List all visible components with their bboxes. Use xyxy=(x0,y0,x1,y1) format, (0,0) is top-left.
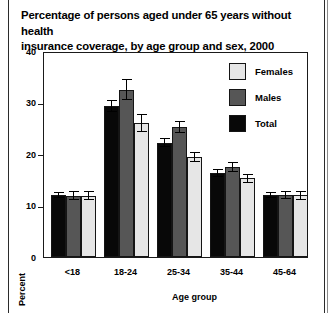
bar-females-<18 xyxy=(81,196,96,257)
y-tick-label: 0 xyxy=(14,254,36,263)
legend-label-females: Females xyxy=(255,66,293,77)
error-bar-total-<18 xyxy=(51,192,66,198)
bar-males-<18 xyxy=(66,196,81,257)
plot-area: Females Males Total xyxy=(43,52,308,258)
page-right-rule-outer xyxy=(327,0,328,313)
legend-item-total: Total xyxy=(229,115,293,132)
bar-females-25-34 xyxy=(187,157,202,257)
legend-item-males: Males xyxy=(229,89,293,106)
bar-females-18-24 xyxy=(134,123,149,257)
error-bar-females-25-34 xyxy=(187,152,202,161)
y-tick-label: 10 xyxy=(14,202,36,211)
error-bar-males-35-44 xyxy=(225,162,240,171)
error-bar-total-18-24 xyxy=(104,100,119,112)
error-bar-total-45-64 xyxy=(263,192,278,198)
y-tick-mark xyxy=(38,155,43,156)
figure-container: Percentage of persons aged under 65 year… xyxy=(0,0,333,313)
bar-females-35-44 xyxy=(240,178,255,257)
chart-title: Percentage of persons aged under 65 year… xyxy=(21,8,306,55)
y-axis-title: Percent xyxy=(17,273,27,306)
x-axis-title: Age group xyxy=(28,292,333,302)
error-bar-total-35-44 xyxy=(210,169,225,176)
y-tick-label: 40 xyxy=(14,48,36,57)
chart-title-line-1: Percentage of persons aged under 65 year… xyxy=(21,9,291,37)
bar-males-45-64 xyxy=(278,195,293,257)
bar-total-18-24 xyxy=(104,106,119,257)
page-left-rule xyxy=(8,0,9,313)
error-bar-total-25-34 xyxy=(157,138,172,147)
y-tick-mark xyxy=(38,207,43,208)
bar-males-25-34 xyxy=(172,127,187,257)
bar-total-35-44 xyxy=(210,173,225,257)
bar-females-45-64 xyxy=(293,195,308,257)
y-tick-mark xyxy=(38,104,43,105)
error-bar-females-18-24 xyxy=(134,114,149,133)
x-tick-label-45-64: 45-64 xyxy=(250,268,320,277)
bar-total-45-64 xyxy=(263,195,278,257)
bar-males-18-24 xyxy=(119,90,134,257)
y-tick-label: 30 xyxy=(14,99,36,108)
legend-label-males: Males xyxy=(255,92,281,103)
error-bar-males-18-24 xyxy=(119,79,134,101)
error-bar-females-<18 xyxy=(81,191,96,200)
legend-swatch-females xyxy=(229,63,246,80)
legend-item-females: Females xyxy=(229,63,293,80)
error-bar-males-<18 xyxy=(66,191,81,200)
legend-label-total: Total xyxy=(255,118,277,129)
page-right-rule xyxy=(324,0,325,313)
chart-title-line-2: insurance coverage, by age group and sex… xyxy=(21,40,274,52)
chart-legend: Females Males Total xyxy=(229,63,293,141)
bar-total-25-34 xyxy=(157,143,172,257)
error-bar-females-35-44 xyxy=(240,174,255,183)
y-tick-label: 20 xyxy=(14,151,36,160)
legend-swatch-males xyxy=(229,89,246,106)
bar-males-35-44 xyxy=(225,167,240,257)
error-bar-males-25-34 xyxy=(172,121,187,133)
error-bar-males-45-64 xyxy=(278,191,293,199)
bar-total-<18 xyxy=(51,195,66,257)
error-bar-females-45-64 xyxy=(293,191,308,200)
legend-swatch-total xyxy=(229,115,246,132)
